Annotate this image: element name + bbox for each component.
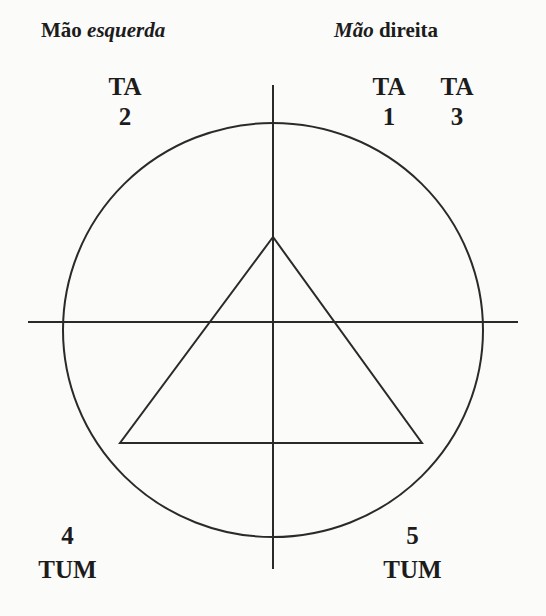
header-left-word: Mão <box>41 18 82 42</box>
beat-syllable: TA <box>432 73 482 101</box>
triangle <box>120 237 422 443</box>
beat-ta-2: TA 2 <box>100 73 150 131</box>
header-right-italic: Mão <box>334 18 374 42</box>
beat-tum-4: 4 TUM <box>30 522 105 584</box>
beat-ta-3: TA 3 <box>432 73 482 131</box>
beat-number: 3 <box>432 103 482 131</box>
beat-number: 5 <box>375 522 450 550</box>
header-right-hand: Mão direita <box>334 18 438 42</box>
beat-syllable: TUM <box>375 556 450 584</box>
beat-number: 4 <box>30 522 105 550</box>
beat-number: 1 <box>364 103 414 131</box>
beat-number: 2 <box>100 103 150 131</box>
hand-pattern-diagram: Mão esquerda Mão direita TA 2 TA 1 TA 3 … <box>0 0 546 616</box>
beat-syllable: TA <box>100 73 150 101</box>
beat-tum-5: 5 TUM <box>375 522 450 584</box>
header-left-hand: Mão esquerda <box>41 18 165 42</box>
beat-syllable: TUM <box>30 556 105 584</box>
header-left-italic: esquerda <box>87 18 165 42</box>
beat-syllable: TA <box>364 73 414 101</box>
beat-ta-1: TA 1 <box>364 73 414 131</box>
header-right-word: direita <box>379 18 438 42</box>
